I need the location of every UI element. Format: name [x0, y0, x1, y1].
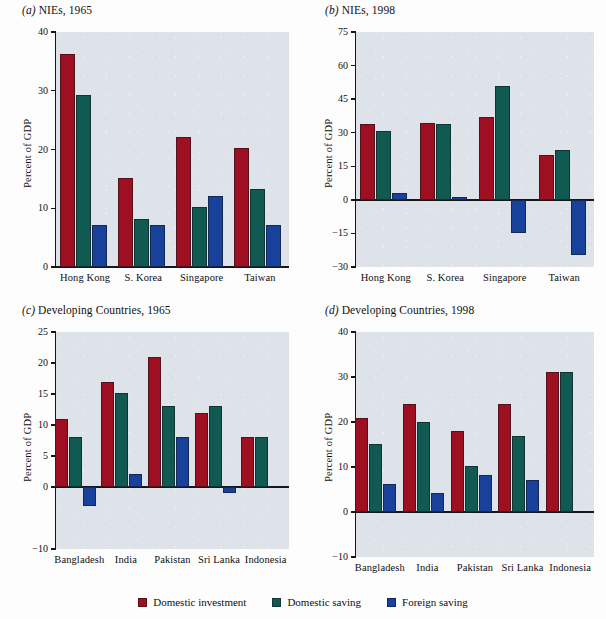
panel-b-y-axis — [355, 32, 356, 267]
panel-b-y-tick — [351, 199, 356, 200]
panel-c-y-tick-label: −10 — [18, 543, 48, 554]
panel-d-letter: (d) — [325, 304, 339, 316]
bar — [495, 86, 510, 200]
bar — [148, 357, 161, 487]
panel-b-y-tick-label: 45 — [318, 93, 348, 104]
bar — [383, 484, 396, 512]
bar — [92, 225, 107, 267]
bar — [571, 200, 586, 255]
bar — [250, 189, 265, 267]
bar — [369, 444, 382, 512]
bar — [392, 193, 407, 200]
panel-c-y-tick-label: 10 — [18, 419, 48, 430]
panel-d-x-tick-label: Indonesia — [525, 562, 606, 573]
bar — [234, 148, 249, 267]
bar — [101, 382, 114, 487]
chart-panel-c: (c) Developing Countries, 1965 Percent o… — [0, 300, 303, 600]
legend-label: Foreign saving — [402, 596, 468, 608]
panel-a-y-tick — [51, 149, 56, 150]
bar — [60, 54, 75, 267]
bar — [176, 137, 191, 267]
bar — [479, 117, 494, 199]
bar — [192, 207, 207, 267]
panel-a-title: (a) NIEs, 1965 — [22, 4, 92, 16]
bar — [560, 372, 573, 512]
bar — [431, 493, 444, 512]
bar — [479, 475, 492, 512]
panel-d-y-tick-label: 40 — [318, 326, 348, 337]
bar — [420, 123, 435, 200]
panel-a-y-tick — [51, 266, 56, 267]
bar — [241, 437, 254, 487]
bar — [436, 124, 451, 200]
panel-c-title-text: Developing Countries, 1965 — [38, 304, 171, 316]
bar — [162, 406, 175, 487]
panel-a-y-tick — [51, 31, 56, 32]
panel-b-y-tick-label: −15 — [318, 227, 348, 238]
panel-c-y-tick-label: 25 — [18, 326, 48, 337]
panel-c-y-tick — [51, 548, 56, 549]
bar — [83, 487, 96, 506]
bar — [195, 413, 208, 487]
bar — [451, 431, 464, 512]
panel-d-plot-area — [356, 332, 594, 557]
panel-b-y-tick-label: 0 — [318, 194, 348, 205]
bar — [115, 393, 128, 487]
panel-b-plot-area — [356, 32, 594, 267]
panel-b-y-tick — [351, 266, 356, 267]
panel-d-y-tick-label: 30 — [318, 371, 348, 382]
bar — [55, 419, 68, 487]
bar — [452, 197, 467, 200]
panel-c-y-tick-label: 20 — [18, 357, 48, 368]
panel-c-y-tick — [51, 362, 56, 363]
panel-b-y-tick — [351, 233, 356, 234]
panel-d-y-tick-label: −10 — [318, 551, 348, 562]
panel-b-y-tick-label: 15 — [318, 160, 348, 171]
legend-item-foreign_saving: Foreign saving — [387, 596, 468, 608]
panel-d-title: (d) Developing Countries, 1998 — [325, 304, 474, 316]
bar — [118, 178, 133, 267]
panel-b-letter: (b) — [325, 4, 339, 16]
legend-swatch-icon — [387, 598, 396, 607]
bar — [69, 437, 82, 487]
legend-swatch-icon — [272, 598, 281, 607]
panel-b-y-tick — [351, 65, 356, 66]
bar — [266, 225, 281, 267]
panel-c-letter: (c) — [22, 304, 35, 316]
bar — [403, 404, 416, 512]
panel-b-y-tick-label: 30 — [318, 127, 348, 138]
panel-d-y-tick — [351, 376, 356, 377]
panel-b-y-tick — [351, 132, 356, 133]
bar — [176, 437, 189, 487]
panel-a-title-text: NIEs, 1965 — [39, 4, 92, 16]
legend-item-domestic_investment: Domestic investment — [138, 596, 246, 608]
bar — [376, 131, 391, 200]
chart-legend: Domestic investmentDomestic savingForeig… — [0, 590, 606, 614]
panel-b-y-tick — [351, 98, 356, 99]
panel-a-y-tick — [51, 90, 56, 91]
bar — [546, 372, 559, 512]
figure-panel-grid: (a) NIEs, 1965 Percent of GDP 010203040H… — [0, 0, 606, 619]
bar — [209, 406, 222, 487]
bar — [134, 219, 149, 267]
panel-c-title: (c) Developing Countries, 1965 — [22, 304, 171, 316]
panel-d-y-tick — [351, 331, 356, 332]
panel-b-title-text: NIEs, 1998 — [342, 4, 395, 16]
panel-c-y-tick — [51, 393, 56, 394]
bar — [360, 124, 375, 200]
panel-d-y-tick-label: 10 — [318, 461, 348, 472]
panel-d-y-tick — [351, 556, 356, 557]
bar — [76, 95, 91, 267]
legend-label: Domestic investment — [153, 596, 246, 608]
panel-a-x-tick-label: Taiwan — [215, 272, 305, 283]
bar — [512, 436, 525, 513]
bar — [498, 404, 511, 512]
panel-b-y-tick-label: −30 — [318, 261, 348, 272]
panel-a-y-tick-label: 10 — [18, 202, 48, 213]
bar — [526, 480, 539, 512]
panel-b-x-tick-label: Taiwan — [519, 272, 606, 283]
panel-b-y-tick — [351, 166, 356, 167]
bar — [555, 150, 570, 200]
bar — [539, 155, 554, 200]
panel-d-y-tick-label: 0 — [318, 506, 348, 517]
